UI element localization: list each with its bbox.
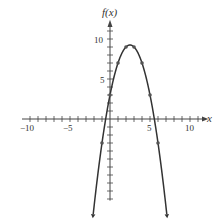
y-tick-label-10: 10 xyxy=(94,35,104,45)
parabola-curve xyxy=(91,45,169,218)
parabola-chart: f(x) x −10 −5 5 10 5 10 xyxy=(0,0,224,224)
data-point xyxy=(108,93,112,97)
curve-arrow-icon xyxy=(165,214,169,218)
data-point xyxy=(140,61,144,65)
x-tick-label-10: 10 xyxy=(185,123,195,133)
x-axis-label: x xyxy=(206,112,212,124)
y-tick-label-5: 5 xyxy=(100,75,105,85)
y-axis-arrow-icon xyxy=(108,20,113,27)
data-point xyxy=(156,141,160,145)
x-tick-label-5: 5 xyxy=(147,123,152,133)
data-point xyxy=(132,45,136,49)
data-point xyxy=(116,61,120,65)
data-point xyxy=(148,93,152,97)
axes xyxy=(22,20,208,201)
x-tick-label-neg10: −10 xyxy=(20,123,35,133)
data-point xyxy=(124,45,128,49)
x-tick-label-neg5: −5 xyxy=(63,123,73,133)
curve-arrow-icon xyxy=(91,214,95,218)
data-point xyxy=(100,141,104,145)
y-axis-label: f(x) xyxy=(102,6,118,19)
